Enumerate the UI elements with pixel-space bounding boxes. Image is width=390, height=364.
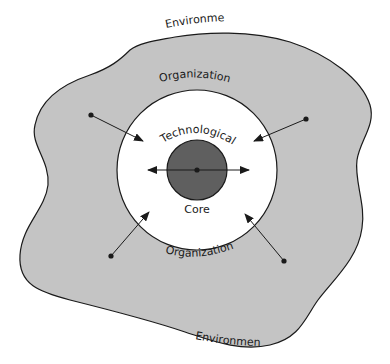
environment-label-top: Environment <box>0 0 225 31</box>
technological-core-diagram: Environment Organization Technological C… <box>0 0 390 364</box>
core-label: Core <box>184 203 210 216</box>
core-center-dot <box>194 167 199 172</box>
